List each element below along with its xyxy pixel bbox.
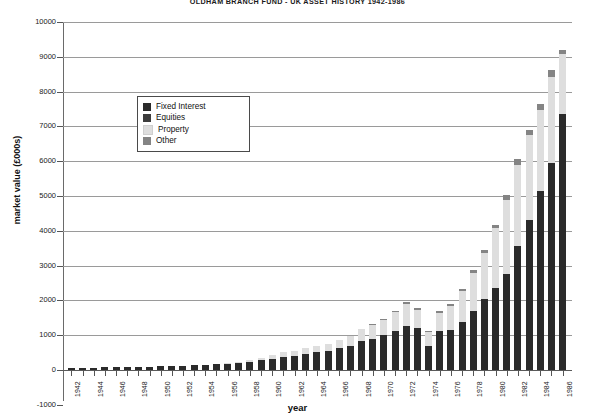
bar-segment-property xyxy=(380,320,387,335)
bar-segment-fixed-interest xyxy=(258,360,265,370)
x-axis-tick xyxy=(116,370,117,376)
x-axis-tick-label: 1952 xyxy=(186,381,193,397)
x-axis-tick xyxy=(295,370,296,376)
x-axis-tick-label: 1982 xyxy=(521,381,528,397)
x-axis-tick xyxy=(518,370,519,376)
x-axis-tick xyxy=(83,370,84,376)
x-axis-tick-label: 1966 xyxy=(342,381,349,397)
x-axis-tick xyxy=(417,370,418,376)
legend-label: Other xyxy=(156,137,176,145)
x-axis-tick xyxy=(261,370,262,376)
x-axis-tick xyxy=(94,370,95,376)
x-axis-tick-label: 1948 xyxy=(141,381,148,397)
x-axis-tick xyxy=(183,370,184,376)
x-axis-tick xyxy=(473,370,474,376)
bar-segment-fixed-interest xyxy=(369,339,376,370)
x-axis-tick xyxy=(127,370,128,376)
bar-1979 xyxy=(481,250,488,370)
bar-segment-fixed-interest xyxy=(347,346,354,370)
bar-segment-property xyxy=(481,253,488,298)
legend-swatch-other xyxy=(143,137,151,145)
legend-label: Equities xyxy=(156,114,185,122)
bar-segment-fixed-interest xyxy=(470,311,477,370)
bar-segment-fixed-interest xyxy=(447,330,454,370)
bar-1975 xyxy=(436,311,443,370)
bar-segment-property xyxy=(537,110,544,191)
bar-1962 xyxy=(291,351,298,370)
bar-chart: OLDHAM BRANCH FUND - UK ASSET HISTORY 19… xyxy=(0,0,595,419)
bar-1970 xyxy=(380,319,387,370)
x-axis-tick-label: 1964 xyxy=(320,381,327,397)
bar-segment-fixed-interest xyxy=(425,346,432,370)
x-axis-tick xyxy=(440,370,441,376)
y-axis-tick-label: 10000 xyxy=(35,18,56,26)
y-axis-title: market value (£000s) xyxy=(12,115,22,245)
bar-segment-fixed-interest xyxy=(436,331,443,370)
x-axis-tick xyxy=(529,370,530,376)
legend-item: Other xyxy=(143,136,244,148)
bar-segment-fixed-interest xyxy=(537,191,544,370)
x-axis-tick xyxy=(496,370,497,376)
x-axis-tick xyxy=(306,370,307,376)
bar-1958 xyxy=(246,360,253,370)
x-axis-tick-label: 1976 xyxy=(454,381,461,397)
y-axis-extension xyxy=(63,370,64,401)
bar-segment-property xyxy=(559,54,566,115)
bar-segment-property xyxy=(392,312,399,330)
x-axis-tick xyxy=(317,370,318,376)
y-axis-tick-label: 6000 xyxy=(39,157,56,165)
legend-label: Fixed Interest xyxy=(156,103,206,111)
bar-segment-property xyxy=(548,77,555,163)
bar-segment-fixed-interest xyxy=(291,356,298,370)
x-axis-tick-label: 1970 xyxy=(387,381,394,397)
x-axis-tick-label: 1960 xyxy=(275,381,282,397)
bar-segment-fixed-interest xyxy=(403,326,410,370)
x-axis-tick xyxy=(71,370,72,376)
bar-1966 xyxy=(336,340,343,370)
bar-segment-property xyxy=(403,304,410,326)
bar-1984 xyxy=(537,104,544,370)
x-axis-tick xyxy=(239,370,240,376)
bar-segment-fixed-interest xyxy=(459,322,466,370)
bar-segment-fixed-interest xyxy=(235,363,242,370)
bar-segment-fixed-interest xyxy=(336,348,343,370)
x-axis-tick-label: 1962 xyxy=(298,381,305,397)
bar-segment-property xyxy=(414,310,421,328)
bar-1967 xyxy=(347,336,354,370)
bar-1959 xyxy=(258,358,265,370)
x-axis-tick-label: 1984 xyxy=(543,381,550,397)
bar-segment-fixed-interest xyxy=(280,357,287,370)
bar-segment-fixed-interest xyxy=(559,114,566,370)
y-axis-tick-label: 5000 xyxy=(39,192,56,200)
x-axis-tick xyxy=(484,370,485,376)
y-axis-tick-label: 1000 xyxy=(39,331,56,339)
x-axis-tick-label: 1978 xyxy=(476,381,483,397)
x-axis-tick xyxy=(161,370,162,376)
x-axis-tick xyxy=(272,370,273,376)
bar-1982 xyxy=(514,159,521,370)
bar-1960 xyxy=(269,355,276,370)
bar-1956 xyxy=(224,363,231,370)
legend-item: Property xyxy=(143,124,244,136)
legend-label: Property xyxy=(158,126,189,134)
bar-segment-property xyxy=(470,273,477,311)
bar-1986 xyxy=(559,50,566,370)
bar-segment-property xyxy=(347,336,354,346)
bar-segment-fixed-interest xyxy=(246,362,253,370)
bar-1963 xyxy=(302,348,309,370)
bar-segment-fixed-interest xyxy=(392,331,399,370)
x-axis-tick xyxy=(216,370,217,376)
bar-segment-property xyxy=(503,200,510,275)
x-axis-tick-label: 1980 xyxy=(499,381,506,397)
bar-1977 xyxy=(459,289,466,370)
x-axis-tick xyxy=(172,370,173,376)
bar-segment-fixed-interest xyxy=(313,352,320,370)
bar-1968 xyxy=(358,329,365,370)
y-axis-tick-label: 7000 xyxy=(39,122,56,130)
x-axis-tick-label: 1958 xyxy=(253,381,260,397)
x-axis-tick-label: 1944 xyxy=(97,381,104,397)
x-axis-tick-label: 1974 xyxy=(432,381,439,397)
x-axis-tick xyxy=(462,370,463,376)
x-axis-tick xyxy=(328,370,329,376)
x-axis-tick xyxy=(339,370,340,376)
